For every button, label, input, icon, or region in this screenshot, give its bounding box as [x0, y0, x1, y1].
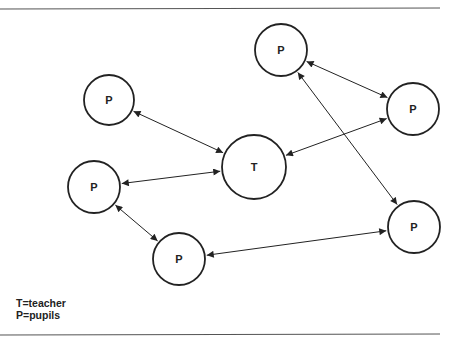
arrow-p_left-t — [122, 171, 220, 183]
node-p_top: P — [255, 24, 307, 76]
arrow-p_top-p_bottomright — [298, 72, 397, 204]
legend-teacher: T=teacher — [16, 297, 66, 309]
arrow-p_left-p_bottom — [115, 205, 157, 241]
nodes-group: PPPTPPP — [68, 24, 440, 285]
node-p_right: P — [387, 83, 439, 135]
arrow-p_bottom-p_bottomright — [207, 231, 387, 255]
arrow-p_top-p_right — [307, 61, 388, 97]
pupil-label: P — [90, 181, 97, 193]
node-p_bottom: P — [153, 233, 205, 285]
node-p_bottomright: P — [388, 201, 440, 253]
pupil-label: P — [175, 253, 182, 265]
pupil-label: P — [410, 221, 417, 233]
legend-pupils: P=pupils — [16, 309, 66, 321]
node-t: T — [222, 135, 286, 199]
teacher-label: T — [251, 161, 258, 173]
top-rule — [0, 8, 440, 9]
bottom-rule — [0, 334, 440, 335]
pupil-label: P — [409, 103, 416, 115]
pupil-label: P — [277, 44, 284, 56]
node-p_topleft: P — [84, 75, 134, 125]
interaction-diagram: PPPTPPP — [0, 0, 459, 349]
node-p_left: P — [68, 161, 120, 213]
arrow-p_topleft-t — [134, 111, 224, 152]
legend: T=teacher P=pupils — [16, 297, 66, 321]
pupil-label: P — [105, 94, 112, 106]
